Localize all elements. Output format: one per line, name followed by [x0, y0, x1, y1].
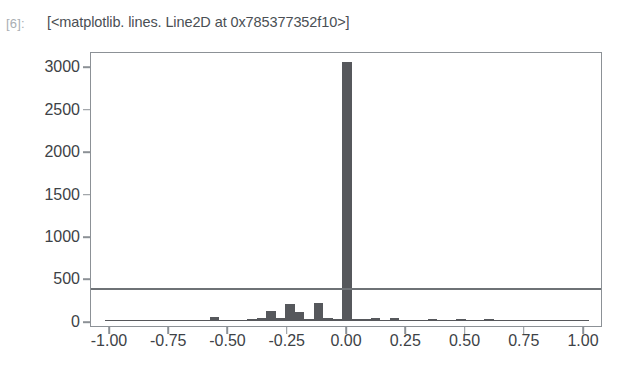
y-tick-mark	[83, 321, 90, 323]
bar	[115, 320, 124, 321]
threshold-line	[91, 288, 601, 290]
bar	[371, 318, 380, 321]
bar	[409, 320, 418, 321]
bar	[361, 319, 370, 321]
bar	[522, 320, 531, 321]
bar	[238, 320, 247, 321]
bar	[342, 62, 351, 321]
bar	[181, 320, 190, 321]
bar	[219, 320, 228, 321]
bar	[399, 320, 408, 321]
bar	[484, 319, 493, 321]
bar	[466, 320, 475, 321]
bar	[333, 319, 342, 321]
bar	[228, 320, 237, 321]
y-tick-mark	[83, 194, 90, 196]
bar	[285, 304, 294, 321]
bar	[475, 320, 484, 321]
x-tick-label: -0.50	[192, 332, 262, 350]
bar	[266, 311, 275, 321]
bar	[124, 320, 133, 321]
y-tick-label: 1500	[4, 186, 80, 204]
bar	[579, 320, 588, 321]
bar	[437, 320, 446, 321]
bar	[390, 318, 399, 321]
x-tick-mark	[523, 327, 525, 334]
bar	[532, 320, 541, 321]
x-tick-mark	[167, 327, 169, 334]
bar	[323, 318, 332, 321]
bar	[560, 320, 569, 321]
bar	[153, 320, 162, 321]
y-tick-mark	[83, 279, 90, 281]
x-tick-mark	[227, 327, 229, 334]
bar	[304, 319, 313, 321]
y-tick-mark	[83, 109, 90, 111]
y-tick-mark	[83, 151, 90, 153]
bar	[172, 320, 181, 321]
bar	[418, 320, 427, 321]
bar	[210, 317, 219, 321]
y-tick-label: 3000	[4, 58, 80, 76]
x-tick-label: 1.00	[548, 332, 618, 350]
bar	[247, 319, 256, 321]
y-tick-label: 500	[4, 270, 80, 288]
bar	[456, 319, 465, 321]
bar	[570, 320, 579, 321]
x-tick-label: 0.75	[489, 332, 559, 350]
bar	[276, 318, 285, 321]
bar	[257, 318, 266, 321]
bar	[162, 320, 171, 321]
bar	[541, 320, 550, 321]
notebook-output-row: [6]: [<matplotlib. lines. Line2D at 0x78…	[0, 0, 632, 44]
output-prompt-label: [6]:	[6, 16, 25, 31]
y-tick-mark	[83, 236, 90, 238]
bar	[380, 320, 389, 321]
output-repr-text: [<matplotlib. lines. Line2D at 0x7853773…	[47, 14, 349, 30]
plot-axes-frame	[90, 52, 602, 327]
bar	[200, 320, 209, 321]
x-tick-mark	[404, 327, 406, 334]
bar	[428, 319, 437, 321]
x-tick-mark	[108, 327, 110, 334]
bar	[105, 320, 114, 321]
bar	[352, 319, 361, 321]
x-tick-label: -0.75	[133, 332, 203, 350]
x-tick-mark	[582, 327, 584, 334]
bar	[191, 320, 200, 321]
bar	[134, 320, 143, 321]
matplotlib-figure: 050010001500200025003000 -1.00-0.75-0.50…	[0, 40, 632, 372]
y-tick-label: 2500	[4, 101, 80, 119]
y-tick-label: 0	[4, 313, 80, 331]
x-tick-label: 0.50	[430, 332, 500, 350]
bar	[143, 320, 152, 321]
x-tick-mark	[286, 327, 288, 334]
x-tick-label: 0.25	[370, 332, 440, 350]
x-tick-mark	[464, 327, 466, 334]
bar	[295, 312, 304, 321]
bar	[314, 303, 323, 321]
y-tick-label: 2000	[4, 143, 80, 161]
bar	[513, 320, 522, 321]
plot-data-area	[91, 53, 601, 326]
bar	[494, 320, 503, 321]
x-tick-mark	[345, 327, 347, 334]
bar	[503, 320, 512, 321]
x-tick-label: -0.25	[252, 332, 322, 350]
y-tick-label: 1000	[4, 228, 80, 246]
y-tick-mark	[83, 66, 90, 68]
bar	[551, 320, 560, 321]
x-tick-label: 0.00	[311, 332, 381, 350]
x-tick-label: -1.00	[74, 332, 144, 350]
bar	[447, 320, 456, 321]
